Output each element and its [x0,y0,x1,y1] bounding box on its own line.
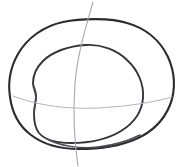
sketch-canvas [0,0,181,167]
sketch-drawing [0,0,181,167]
